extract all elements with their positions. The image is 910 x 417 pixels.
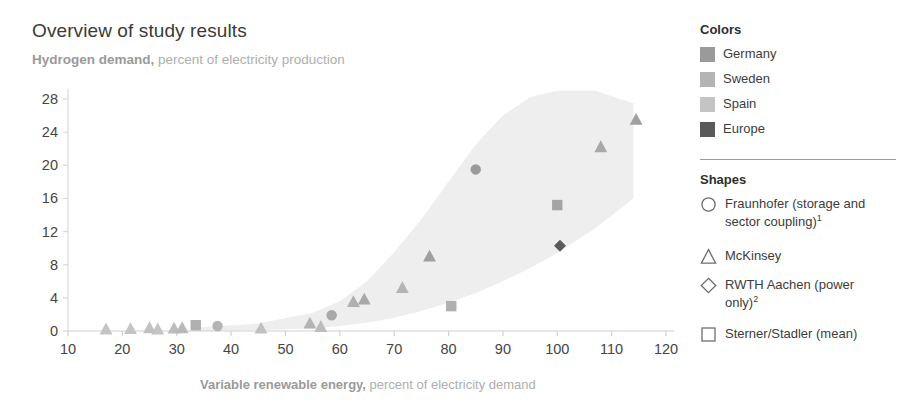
- x-axis-title: Variable renewable energy, percent of el…: [200, 377, 536, 392]
- y-tick-label: 8: [24, 257, 58, 273]
- circle-shape-icon: [700, 196, 717, 213]
- legend-shape-item-square[interactable]: Sterner/Stadler (mean): [700, 326, 875, 343]
- x-axis-title-strong: Variable renewable energy,: [200, 377, 366, 392]
- legend-color-item-spain[interactable]: Spain: [700, 96, 756, 112]
- chart-page: Overview of study results Hydrogen deman…: [0, 0, 910, 417]
- plot-area: 0481216202428 10203040506070809010011012…: [0, 0, 690, 417]
- color-swatch-icon: [700, 47, 715, 62]
- y-tick-label: 12: [24, 224, 58, 240]
- color-swatch-icon: [700, 97, 715, 112]
- x-tick-label: 10: [48, 341, 88, 357]
- legend-colors-heading: Colors: [700, 22, 741, 37]
- legend-color-item-sweden[interactable]: Sweden: [700, 71, 770, 87]
- x-tick-label: 120: [646, 341, 686, 357]
- y-tick-label: 28: [24, 91, 58, 107]
- x-tick-label: 90: [483, 341, 523, 357]
- x-tick-label: 30: [157, 341, 197, 357]
- legend-color-item-germany[interactable]: Germany: [700, 46, 776, 62]
- legend-color-label: Spain: [723, 96, 756, 111]
- x-tick-label: 60: [320, 341, 360, 357]
- legend-color-item-europe[interactable]: Europe: [700, 121, 765, 137]
- data-point-circle: [326, 310, 336, 320]
- legend-shape-item-circle[interactable]: Fraunhofer (storage and sector coupling)…: [700, 196, 875, 229]
- legend-color-label: Germany: [723, 46, 776, 61]
- color-swatch-icon: [700, 122, 715, 137]
- x-tick-label: 50: [265, 341, 305, 357]
- square-shape-icon: [700, 326, 717, 343]
- x-axis-title-light: percent of electricity demand: [366, 377, 536, 392]
- study-range-band: [193, 91, 633, 331]
- data-point-circle: [471, 164, 481, 174]
- y-tick-label: 24: [24, 124, 58, 140]
- data-point-triangle: [176, 321, 189, 333]
- data-point-triangle: [100, 323, 113, 335]
- data-point-circle: [212, 321, 222, 331]
- x-tick-label: 40: [211, 341, 251, 357]
- legend-shape-label: RWTH Aachen (power only)2: [725, 277, 875, 310]
- triangle-shape-icon: [700, 248, 717, 265]
- diamond-shape-icon: [700, 277, 717, 294]
- footnote-marker: 2: [753, 294, 758, 304]
- x-tick-label: 80: [429, 341, 469, 357]
- y-tick-label: 0: [24, 323, 58, 339]
- data-point-square: [446, 301, 456, 311]
- x-tick-label: 20: [102, 341, 142, 357]
- data-point-square: [191, 320, 201, 330]
- legend-shapes-heading: Shapes: [700, 172, 746, 187]
- legend-shape-item-diamond[interactable]: RWTH Aachen (power only)2: [700, 277, 875, 310]
- legend-color-label: Europe: [723, 121, 765, 136]
- x-tick-label: 70: [374, 341, 414, 357]
- legend-shape-item-triangle[interactable]: McKinsey: [700, 248, 875, 265]
- legend-shape-label: Sterner/Stadler (mean): [725, 326, 875, 341]
- y-tick-label: 4: [24, 290, 58, 306]
- data-point-square: [552, 200, 562, 210]
- legend-shape-label: Fraunhofer (storage and sector coupling)…: [725, 196, 875, 229]
- legend-shape-label: McKinsey: [725, 248, 875, 263]
- y-tick-label: 20: [24, 157, 58, 173]
- color-swatch-icon: [700, 72, 715, 87]
- y-tick-label: 16: [24, 190, 58, 206]
- legend: Colors GermanySwedenSpainEurope Shapes F…: [700, 0, 910, 417]
- legend-divider: [700, 159, 896, 160]
- x-tick-label: 100: [537, 341, 577, 357]
- footnote-marker: 1: [817, 213, 822, 223]
- data-point-triangle: [124, 322, 137, 334]
- x-tick-label: 110: [592, 341, 632, 357]
- legend-color-label: Sweden: [723, 71, 770, 86]
